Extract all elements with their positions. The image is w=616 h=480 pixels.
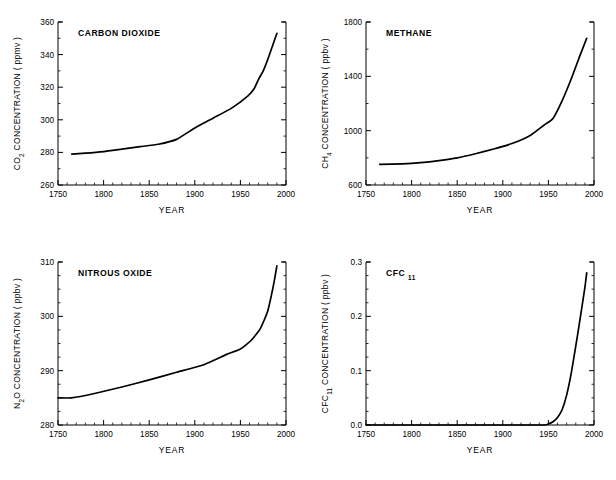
y-tick-label: 0.3 xyxy=(351,258,363,267)
x-axis-label: YEAR xyxy=(467,445,494,455)
x-tick-label: 1850 xyxy=(448,190,467,199)
chart-panel-carbon-dioxide: 1750180018501900195020002602803003203403… xyxy=(0,0,308,240)
x-tick-label: 1850 xyxy=(448,430,467,439)
x-axis-label: YEAR xyxy=(159,205,186,215)
x-tick-label: 1750 xyxy=(357,430,376,439)
chart-panel-nitrous-oxide: 175018001850190019502000280290300310NITR… xyxy=(0,240,308,480)
x-tick-label: 2000 xyxy=(277,190,296,199)
data-curve xyxy=(72,33,277,154)
x-tick-label: 2000 xyxy=(277,430,296,439)
y-tick-label: 0.0 xyxy=(351,421,363,430)
y-tick-label: 600 xyxy=(348,181,362,190)
x-tick-label: 2000 xyxy=(585,190,604,199)
y-tick-label: 280 xyxy=(40,421,54,430)
panel-title: NITROUS OXIDE xyxy=(78,268,152,278)
y-tick-label: 300 xyxy=(40,312,54,321)
x-tick-label: 1900 xyxy=(186,430,205,439)
chart-svg-3: 1750180018501900195020000.00.10.20.3CFC … xyxy=(308,240,616,480)
y-tick-label: 260 xyxy=(40,181,54,190)
x-tick-label: 1900 xyxy=(494,430,513,439)
y-axis-label: CH4 CONCENTRATION ( ppbv ) xyxy=(320,38,333,169)
y-tick-label: 1000 xyxy=(344,127,363,136)
y-tick-label: 300 xyxy=(40,116,54,125)
plot-area-2: 175018001850190019502000280290300310NITR… xyxy=(0,240,308,480)
chart-panel-methane: 175018001850190019502000600100014001800M… xyxy=(308,0,616,240)
data-curve xyxy=(380,38,587,164)
x-tick-label: 1950 xyxy=(539,430,558,439)
y-axis-label: CO2 CONCENTRATION ( ppmv ) xyxy=(12,37,25,170)
x-tick-label: 1750 xyxy=(357,190,376,199)
plot-area-0: 1750180018501900195020002602803003203403… xyxy=(0,0,308,240)
x-tick-label: 1800 xyxy=(402,190,421,199)
panel-title: CFC 11 xyxy=(386,268,416,281)
y-tick-label: 340 xyxy=(40,51,54,60)
x-tick-label: 1950 xyxy=(539,190,558,199)
panel-title: METHANE xyxy=(386,28,432,38)
data-curve xyxy=(366,273,587,425)
y-tick-label: 310 xyxy=(40,258,54,267)
y-tick-label: 360 xyxy=(40,18,54,27)
x-tick-label: 1900 xyxy=(186,190,205,199)
x-tick-label: 1750 xyxy=(49,430,68,439)
chart-svg-0: 1750180018501900195020002602803003203403… xyxy=(0,0,308,240)
plot-area-1: 175018001850190019502000600100014001800M… xyxy=(308,0,616,240)
y-tick-label: 290 xyxy=(40,367,54,376)
chart-panel-cfc-11: 1750180018501900195020000.00.10.20.3CFC … xyxy=(308,240,616,480)
y-axis-label: CFC11 CONCENTRATION ( ppbv ) xyxy=(320,274,333,413)
x-tick-label: 1800 xyxy=(402,430,421,439)
y-tick-label: 1800 xyxy=(344,18,363,27)
y-axis-label: N2O CONCENTRATION ( ppbv ) xyxy=(12,278,25,409)
x-tick-label: 1900 xyxy=(494,190,513,199)
chart-svg-2: 175018001850190019502000280290300310NITR… xyxy=(0,240,308,480)
x-tick-label: 2000 xyxy=(585,430,604,439)
y-tick-label: 280 xyxy=(40,148,54,157)
panel-title: CARBON DIOXIDE xyxy=(78,28,160,38)
x-axis-label: YEAR xyxy=(159,445,186,455)
x-tick-label: 1850 xyxy=(140,190,159,199)
x-axis-label: YEAR xyxy=(467,205,494,215)
y-tick-label: 0.1 xyxy=(351,367,363,376)
y-tick-label: 1400 xyxy=(344,72,363,81)
data-curve xyxy=(58,266,277,398)
y-tick-label: 320 xyxy=(40,83,54,92)
x-tick-label: 1750 xyxy=(49,190,68,199)
chart-svg-1: 175018001850190019502000600100014001800M… xyxy=(308,0,616,240)
x-tick-label: 1800 xyxy=(94,430,113,439)
x-tick-label: 1950 xyxy=(231,430,250,439)
x-tick-label: 1950 xyxy=(231,190,250,199)
plot-area-3: 1750180018501900195020000.00.10.20.3CFC … xyxy=(308,240,616,480)
y-tick-label: 0.2 xyxy=(351,312,363,321)
x-tick-label: 1800 xyxy=(94,190,113,199)
x-tick-label: 1850 xyxy=(140,430,159,439)
greenhouse-gas-figure: 1750180018501900195020002602803003203403… xyxy=(0,0,616,480)
